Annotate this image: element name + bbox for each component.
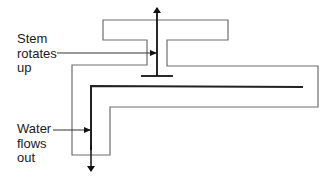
faucet-diagram — [0, 0, 334, 178]
flow-path-line — [91, 86, 303, 150]
